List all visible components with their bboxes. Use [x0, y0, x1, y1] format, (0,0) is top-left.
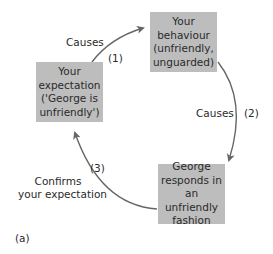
- edge-3-label-line: Confirms: [18, 175, 98, 188]
- edge-3-label-line: your expectation: [18, 188, 98, 201]
- node-response: George responds in an unfriendly fashion: [158, 164, 225, 224]
- edge-3-label: Confirms your expectation: [18, 175, 98, 201]
- edge-3-number: (3): [90, 162, 105, 175]
- node-line: an unfriendly: [160, 187, 223, 214]
- node-line: behaviour: [153, 29, 214, 43]
- node-line: (unfriendly,: [153, 42, 214, 56]
- node-line: responds in: [160, 174, 223, 188]
- node-line: ('George is: [38, 92, 100, 106]
- node-line: expectation: [38, 79, 100, 93]
- arrows-layer: [0, 0, 273, 254]
- node-line: Your: [153, 15, 214, 29]
- panel-label: (a): [15, 232, 30, 245]
- edge-1-label: Causes: [66, 36, 104, 49]
- node-line: unfriendly'): [38, 106, 100, 120]
- node-line: Your: [38, 65, 100, 79]
- node-line: unguarded): [153, 56, 214, 70]
- node-line: fashion: [160, 214, 223, 228]
- edge-2-number: (2): [244, 107, 259, 120]
- node-expectation: Your expectation ('George is unfriendly'…: [36, 62, 103, 122]
- node-line: George: [160, 160, 223, 174]
- edge-1-number: (1): [108, 52, 123, 65]
- node-behaviour: Your behaviour (unfriendly, unguarded): [150, 12, 217, 72]
- edge-2-label: Causes: [196, 107, 234, 120]
